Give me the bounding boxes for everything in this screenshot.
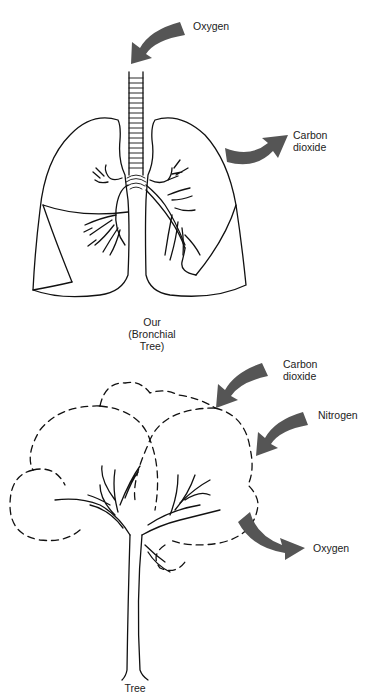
lungs-caption-line1: Our	[112, 316, 192, 328]
tree-trunk	[122, 535, 130, 680]
oxygen-out-arrow-icon	[238, 512, 305, 560]
lungs-caption-line2: (Bronchial	[112, 328, 192, 340]
tree-carbon-dioxide-label-line2: dioxide	[283, 370, 317, 382]
nitrogen-in-arrow-icon	[256, 412, 308, 456]
tree-carbon-dioxide-label: Carbon dioxide	[283, 358, 317, 382]
tree-carbon-dioxide-label-line1: Carbon	[283, 358, 317, 370]
oxygen-in-arrow-icon	[131, 22, 185, 64]
tree-caption: Tree	[115, 682, 155, 694]
tree-branches	[55, 466, 220, 572]
carbon-dioxide-in-arrow-icon	[216, 363, 268, 408]
tree-oxygen-label: Oxygen	[313, 542, 349, 554]
left-bronchi	[84, 165, 128, 255]
lungs-carbon-dioxide-label-line1: Carbon	[293, 129, 327, 141]
left-lung	[33, 118, 129, 297]
carbon-dioxide-out-arrow-icon	[225, 135, 288, 164]
lungs-caption-line3: Tree)	[112, 340, 192, 352]
right-bronchi	[146, 160, 200, 260]
lungs-caption: Our (Bronchial Tree)	[112, 316, 192, 352]
tree-nitrogen-label: Nitrogen	[318, 409, 358, 421]
lungs-illustration	[33, 72, 246, 297]
lungs-carbon-dioxide-label-line2: dioxide	[293, 141, 327, 153]
lungs-oxygen-label: Oxygen	[193, 20, 229, 32]
lungs-carbon-dioxide-label: Carbon dioxide	[293, 129, 327, 153]
trachea	[126, 72, 146, 189]
tree-illustration	[10, 382, 258, 680]
